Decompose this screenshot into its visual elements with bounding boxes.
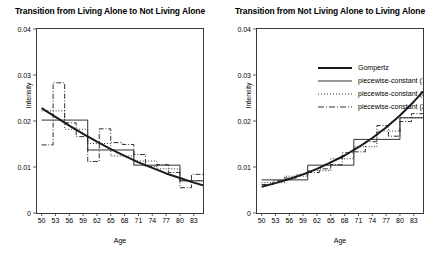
series-dotted-step (262, 118, 423, 183)
chart-panel-left: Transition from Living Alone to Not Livi… (0, 0, 220, 266)
x-tick-label: 71 (135, 217, 143, 224)
y-tick-label: 0.04 (237, 26, 251, 33)
panel-left-plot-area (36, 28, 204, 214)
legend-item-pc25: piecewise-constant (2.5 years) (317, 100, 424, 113)
panel-left-title: Transition from Living Alone to Not Livi… (0, 6, 220, 16)
y-tick-label: 0.04 (17, 26, 31, 33)
panel-right-title: Transition from Not Living Alone to Livi… (220, 6, 440, 16)
x-tick-label: 65 (327, 217, 335, 224)
x-tick-label: 68 (341, 217, 349, 224)
x-tick-label: 65 (107, 217, 115, 224)
x-tick-label: 59 (79, 217, 87, 224)
legend-label-pc10: piecewise-constant (10 years) (358, 77, 424, 84)
panel-right-plot-area: Gompertz piecewise-constant (10 years) p… (256, 28, 424, 214)
legend-label-pc25: piecewise-constant (2.5 years) (358, 103, 424, 110)
x-tick-label: 80 (176, 217, 184, 224)
legend-key-solid (317, 76, 353, 86)
legend-item-pc5: piecewise-constant (5 years) (317, 87, 424, 100)
x-tick-label: 62 (313, 217, 321, 224)
x-tick-label: 77 (382, 217, 390, 224)
panel-right-xlabel: Age (256, 237, 424, 244)
x-tick-label: 77 (162, 217, 170, 224)
x-tick-label: 53 (272, 217, 280, 224)
x-tick-label: 50 (258, 217, 266, 224)
x-tick-label: 83 (190, 217, 198, 224)
x-tick-label: 83 (410, 217, 418, 224)
y-tick-label: 0 (27, 210, 31, 217)
series-solid-step (262, 118, 423, 180)
legend: Gompertz piecewise-constant (10 years) p… (317, 61, 424, 113)
series-dashdot-step (42, 83, 203, 188)
x-tick-label: 74 (368, 217, 376, 224)
legend-key-dotted (317, 89, 353, 99)
x-tick-label: 68 (121, 217, 129, 224)
panel-right-ylabel: Intensity (245, 66, 252, 126)
legend-label-gompertz: Gompertz (358, 64, 389, 71)
series-dashdot-step (262, 114, 423, 185)
panel-right-svg (257, 29, 423, 213)
legend-item-pc10: piecewise-constant (10 years) (317, 74, 424, 87)
y-tick-label: 0.01 (237, 164, 251, 171)
x-tick-label: 50 (38, 217, 46, 224)
legend-item-gompertz: Gompertz (317, 61, 424, 74)
series-dotted-step (42, 111, 203, 181)
legend-key-dashdot (317, 102, 353, 112)
x-tick-label: 74 (148, 217, 156, 224)
figure-root: Transition from Living Alone to Not Livi… (0, 0, 440, 266)
chart-panel-right: Transition from Not Living Alone to Livi… (220, 0, 440, 266)
legend-label-pc5: piecewise-constant (5 years) (358, 90, 424, 97)
x-tick-label: 62 (93, 217, 101, 224)
x-tick-label: 56 (65, 217, 73, 224)
y-tick-label: 0.01 (17, 164, 31, 171)
x-tick-label: 80 (396, 217, 404, 224)
panel-left-svg (37, 29, 203, 213)
x-tick-label: 53 (52, 217, 60, 224)
x-tick-label: 71 (355, 217, 363, 224)
panel-left-xlabel: Age (36, 237, 204, 244)
x-tick-label: 59 (299, 217, 307, 224)
x-tick-label: 56 (285, 217, 293, 224)
panel-left-ylabel: Intensity (25, 66, 32, 126)
legend-key-solid-thick (317, 63, 353, 73)
y-tick-label: 0 (247, 210, 251, 217)
